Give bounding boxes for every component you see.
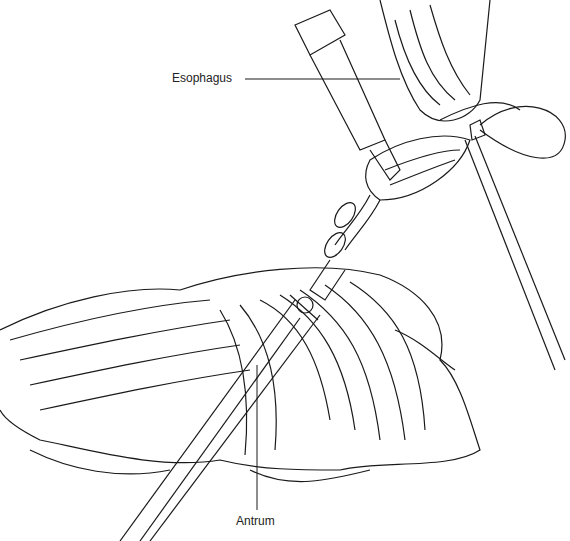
linkage-drawing <box>310 195 380 300</box>
illustration-drawing <box>0 0 570 541</box>
instrument-shaft-drawing <box>120 295 320 541</box>
upper-grasper-drawing <box>295 10 400 180</box>
antrum-label: Antrum <box>236 514 275 528</box>
esophagus-label: Esophagus <box>172 71 232 85</box>
stomach-drawing <box>0 268 480 482</box>
surgical-illustration: Esophagus Antrum <box>0 0 570 541</box>
right-instrument-drawing <box>440 103 565 370</box>
esophagus-drawing <box>380 0 490 121</box>
